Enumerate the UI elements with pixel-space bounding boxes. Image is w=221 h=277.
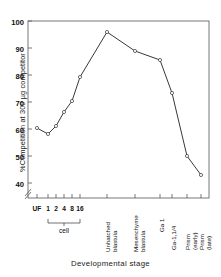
data-point xyxy=(105,30,108,33)
data-point xyxy=(62,110,65,113)
x-tick-label-uf: UF xyxy=(33,205,42,212)
x-tick-label-prism-late: Prism (late) xyxy=(198,234,212,250)
x-tick-line-2: blastula xyxy=(111,222,118,252)
x-tick-label-4: 4 xyxy=(62,205,66,212)
data-point xyxy=(133,49,136,52)
x-tick-line-1: Prism xyxy=(198,234,205,250)
chart-figure: %Competition at 300 µg competitor 100 90… xyxy=(0,0,221,277)
x-tick-line-2: blastula xyxy=(139,215,146,252)
x-tick-label-2: 2 xyxy=(54,205,58,212)
x-tick-line-1: Ga 1 xyxy=(158,219,165,232)
data-point xyxy=(199,173,202,176)
x-tick-label-8: 8 xyxy=(70,205,74,212)
x-tick-line-1: Unhatched xyxy=(104,222,111,252)
data-point xyxy=(46,132,49,135)
cell-stage-bracket-label: cell xyxy=(59,227,69,234)
cell-stage-bracket xyxy=(48,219,80,226)
x-tick-label-16: 16 xyxy=(76,205,83,212)
y-axis-ticks xyxy=(28,21,32,183)
data-point xyxy=(158,58,161,61)
x-axis-ticks xyxy=(37,194,201,198)
x-axis-title: Developmental stage xyxy=(0,259,221,268)
data-point-markers xyxy=(35,30,202,176)
x-tick-label-mesenchyme-blastula: Mesenchyme blastula xyxy=(132,215,146,252)
data-point xyxy=(35,126,38,129)
data-point xyxy=(70,99,73,102)
data-series-line xyxy=(37,32,201,175)
x-tick-label-unhatched-blastula: Unhatched blastula xyxy=(104,222,118,252)
x-tick-label-ga-1: Ga 1 xyxy=(158,219,165,232)
x-tick-line-1: Mesenchyme xyxy=(132,215,139,252)
x-tick-line-1: Prism xyxy=(184,232,191,250)
x-tick-label-1: 1 xyxy=(46,205,50,212)
plot-frame xyxy=(28,21,209,198)
data-point xyxy=(185,154,188,157)
x-tick-line-2: (late) xyxy=(205,234,212,250)
x-tick-line-1: Ga-1,1/4 xyxy=(170,226,177,250)
x-tick-label-ga-1-1-4: Ga-1,1/4 xyxy=(170,226,177,250)
x-tick-label-prism-early: Prism (early) xyxy=(184,232,198,250)
data-point xyxy=(78,75,81,78)
data-point xyxy=(54,124,57,127)
data-point xyxy=(170,91,173,94)
